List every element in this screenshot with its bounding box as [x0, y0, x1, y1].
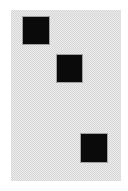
canvas	[0, 0, 128, 191]
black-square-3	[81, 134, 107, 162]
black-square-1	[23, 17, 49, 44]
black-square-2	[57, 55, 82, 82]
